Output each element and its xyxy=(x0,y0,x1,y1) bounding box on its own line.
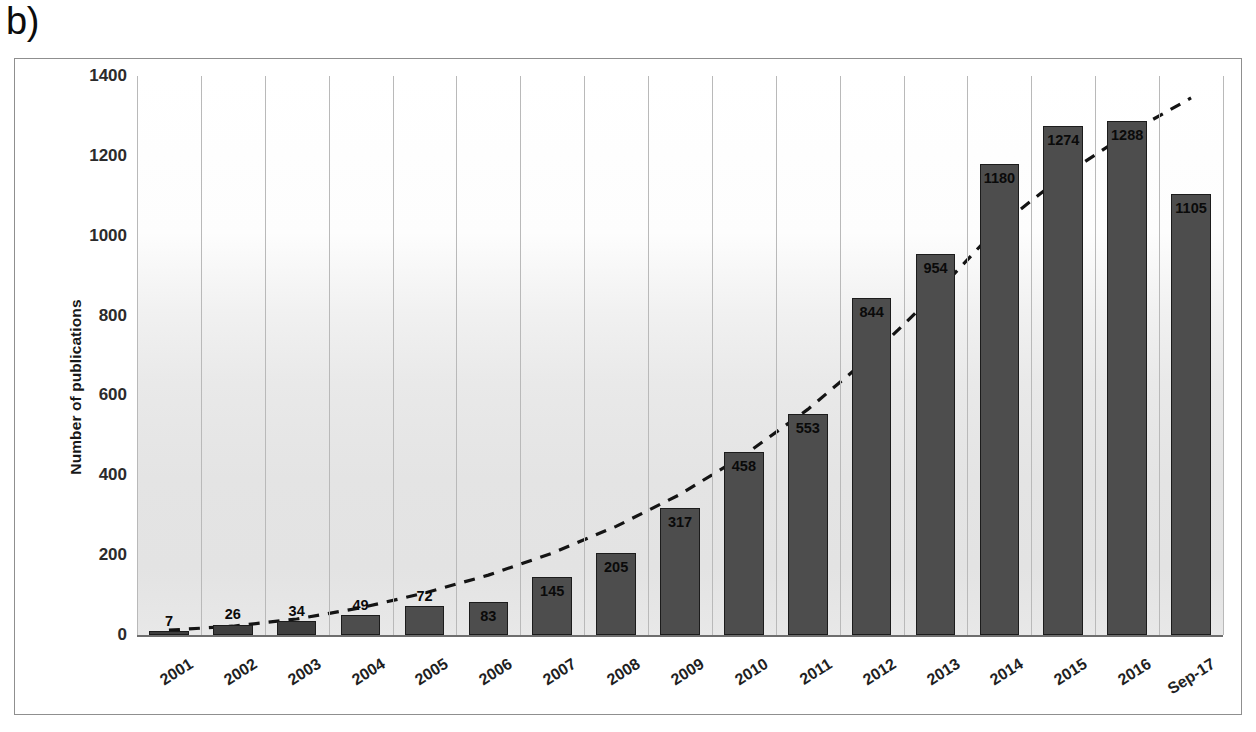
x-tick-label: 2006 xyxy=(459,655,516,700)
bar-value-label: 1288 xyxy=(1111,122,1143,143)
gridline-vertical xyxy=(904,76,905,635)
y-tick-label: 1400 xyxy=(89,66,127,86)
gridline-vertical xyxy=(137,76,138,635)
bar-value-label: 49 xyxy=(353,598,369,617)
plot-area: 7263449728314520531745855384495411801274… xyxy=(137,76,1223,635)
x-tick-label: 2005 xyxy=(395,655,452,700)
gridline-vertical xyxy=(393,76,394,635)
y-tick-label: 0 xyxy=(118,625,127,645)
bar-2014[interactable]: 1180 xyxy=(980,164,1020,635)
bar-value-label: 1105 xyxy=(1175,195,1206,216)
y-tick-label: 600 xyxy=(99,385,127,405)
bar-value-label: 1274 xyxy=(1047,127,1079,148)
bar-2005[interactable]: 72 xyxy=(405,606,445,635)
gridline-vertical xyxy=(265,76,266,635)
bar-value-label: 72 xyxy=(416,589,432,608)
bar-value-label: 145 xyxy=(540,578,564,599)
x-tick-label: 2002 xyxy=(203,655,260,700)
bar-2016[interactable]: 1288 xyxy=(1107,121,1147,635)
bar-2006[interactable]: 83 xyxy=(469,602,509,635)
x-tick-label: 2015 xyxy=(1034,655,1091,700)
x-tick-label: 2008 xyxy=(587,655,644,700)
gridline-vertical xyxy=(1031,76,1032,635)
y-tick-label: 200 xyxy=(99,545,127,565)
gridline-vertical xyxy=(584,76,585,635)
y-tick-label: 800 xyxy=(99,306,127,326)
x-axis-tick-labels: 2001200220032004200520062007200820092010… xyxy=(137,641,1223,716)
x-tick-label: 2014 xyxy=(970,655,1027,700)
bar-2004[interactable]: 49 xyxy=(341,615,381,635)
bar-value-label: 7 xyxy=(165,614,173,633)
bar-2002[interactable]: 26 xyxy=(213,625,253,635)
bar-2013[interactable]: 954 xyxy=(916,254,956,635)
bar-2009[interactable]: 317 xyxy=(660,508,700,635)
chart-frame: Number of publications 02004006008001000… xyxy=(14,58,1242,715)
gridline-vertical xyxy=(1159,76,1160,635)
gridline-vertical xyxy=(648,76,649,635)
y-axis-tick-labels: 0200400600800100012001400 xyxy=(55,59,127,714)
x-tick-label: 2012 xyxy=(842,655,899,700)
bar-value-label: 458 xyxy=(732,453,756,474)
x-tick-label: 2010 xyxy=(714,655,771,700)
bar-value-label: 317 xyxy=(668,509,692,530)
bar-2012[interactable]: 844 xyxy=(852,298,892,635)
panel-label: b) xyxy=(6,2,39,40)
bar-value-label: 34 xyxy=(289,604,305,623)
gridline-vertical xyxy=(776,76,777,635)
y-tick-label: 1200 xyxy=(89,146,127,166)
bar-2010[interactable]: 458 xyxy=(724,452,764,635)
x-tick-label: 2013 xyxy=(906,655,963,700)
bar-2003[interactable]: 34 xyxy=(277,621,317,635)
y-tick-label: 400 xyxy=(99,465,127,485)
bar-Sep-17[interactable]: 1105 xyxy=(1171,194,1211,635)
x-axis-baseline xyxy=(137,635,1223,637)
y-tick-label: 1000 xyxy=(89,226,127,246)
x-tick-label: 2007 xyxy=(523,655,580,700)
bar-value-label: 844 xyxy=(860,299,884,320)
bar-value-label: 1180 xyxy=(984,165,1015,186)
bar-value-label: 205 xyxy=(604,554,628,575)
gridline-vertical xyxy=(520,76,521,635)
x-tick-label: 2011 xyxy=(778,655,835,700)
x-tick-label: 2003 xyxy=(267,655,324,700)
gridline-vertical xyxy=(840,76,841,635)
bar-2007[interactable]: 145 xyxy=(532,577,572,635)
bar-value-label: 26 xyxy=(225,607,241,626)
gridline-vertical xyxy=(1223,76,1224,635)
bar-value-label: 553 xyxy=(796,415,820,436)
gridline-vertical xyxy=(329,76,330,635)
gridline-vertical xyxy=(456,76,457,635)
gridline-vertical xyxy=(201,76,202,635)
bar-value-label: 954 xyxy=(923,255,947,276)
gridline-vertical xyxy=(712,76,713,635)
x-tick-label: 2009 xyxy=(651,655,708,700)
x-tick-label: 2001 xyxy=(139,655,196,700)
bar-value-label: 83 xyxy=(480,603,496,624)
bar-2008[interactable]: 205 xyxy=(596,553,636,635)
bar-2011[interactable]: 553 xyxy=(788,414,828,635)
bar-2015[interactable]: 1274 xyxy=(1043,126,1083,635)
x-tick-label: 2016 xyxy=(1098,655,1155,700)
figure-panel-b: b) Number of publications 02004006008001… xyxy=(0,0,1256,732)
gridline-vertical xyxy=(1095,76,1096,635)
x-tick-label: Sep-17 xyxy=(1162,655,1219,700)
x-tick-label: 2004 xyxy=(331,655,388,700)
gridline-vertical xyxy=(967,76,968,635)
